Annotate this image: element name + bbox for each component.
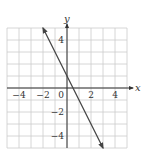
coordinate-plane-chart: xy−4−20244−2−4 xyxy=(0,0,148,160)
y-tick-label: 4 xyxy=(58,35,64,45)
x-tick-label: −4 xyxy=(12,90,26,100)
axes xyxy=(7,24,133,148)
y-tick-label: −2 xyxy=(51,107,64,117)
x-tick-label: 4 xyxy=(112,90,118,100)
x-tick-label: 0 xyxy=(58,90,64,100)
y-axis-label: y xyxy=(63,13,70,24)
y-tick-label: −4 xyxy=(51,131,65,141)
tick-labels: xy−4−20244−2−4 xyxy=(12,13,141,141)
x-axis-label: x xyxy=(135,82,141,93)
x-tick-label: 2 xyxy=(88,90,94,100)
x-tick-label: −2 xyxy=(36,90,49,100)
